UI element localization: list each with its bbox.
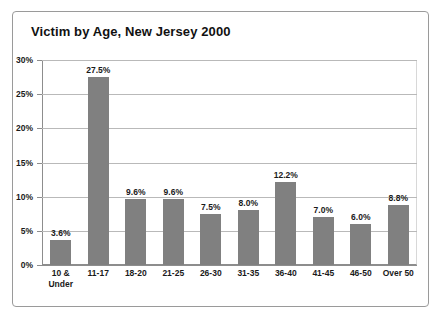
bar[interactable]: 3.6% <box>50 240 71 265</box>
x-axis-label: 36-40 <box>267 268 305 290</box>
bar-slot: 8.0% <box>230 60 268 265</box>
bar[interactable]: 7.0% <box>313 217 334 265</box>
bar-value-label: 7.5% <box>201 202 220 212</box>
bar-value-label: 8.0% <box>239 198 258 208</box>
bar-value-label: 7.0% <box>314 205 333 215</box>
y-axis-label: 20% <box>16 123 33 133</box>
x-axis-labels: 10 & Under11-1718-2021-2526-3031-3536-40… <box>42 268 417 290</box>
chart-frame: Victim by Age, New Jersey 2000 0%5%10%15… <box>12 11 429 307</box>
bar-slot: 8.8% <box>380 60 418 265</box>
y-axis-tick <box>37 265 42 266</box>
bar[interactable]: 9.6% <box>125 199 146 265</box>
bar[interactable]: 27.5% <box>88 77 109 265</box>
x-axis-label: 10 & Under <box>42 268 80 290</box>
bar-value-label: 3.6% <box>51 228 70 238</box>
x-axis-label: Over 50 <box>380 268 418 290</box>
bar-slot: 12.2% <box>267 60 305 265</box>
bar-value-label: 9.6% <box>126 187 145 197</box>
x-axis-label: 18-20 <box>117 268 155 290</box>
x-axis-label: 11-17 <box>80 268 118 290</box>
bar[interactable]: 9.6% <box>163 199 184 265</box>
bar-value-label: 9.6% <box>164 187 183 197</box>
bar-value-label: 6.0% <box>351 212 370 222</box>
y-axis-label: 10% <box>16 192 33 202</box>
bar[interactable]: 6.0% <box>350 224 371 265</box>
y-axis-label: 25% <box>16 89 33 99</box>
bar-series: 3.6%27.5%9.6%9.6%7.5%8.0%12.2%7.0%6.0%8.… <box>42 60 417 265</box>
bar-slot: 3.6% <box>42 60 80 265</box>
bar-slot: 27.5% <box>80 60 118 265</box>
bar-slot: 7.0% <box>305 60 343 265</box>
bar[interactable]: 8.0% <box>238 210 259 265</box>
bar-slot: 9.6% <box>117 60 155 265</box>
y-axis-label: 0% <box>21 260 33 270</box>
bar-value-label: 8.8% <box>389 193 408 203</box>
bar[interactable]: 12.2% <box>275 182 296 265</box>
bar-slot: 7.5% <box>192 60 230 265</box>
x-axis-label: 26-30 <box>192 268 230 290</box>
x-axis-label: 21-25 <box>155 268 193 290</box>
bar-value-label: 27.5% <box>86 65 110 75</box>
y-axis-label: 5% <box>21 226 33 236</box>
plot-area: 0%5%10%15%20%25%30% 3.6%27.5%9.6%9.6%7.5… <box>42 60 417 265</box>
bar-value-label: 12.2% <box>274 170 298 180</box>
gridline <box>42 265 417 266</box>
y-axis-label: 15% <box>16 158 33 168</box>
bar[interactable]: 8.8% <box>388 205 409 265</box>
x-axis-label: 41-45 <box>305 268 343 290</box>
bar[interactable]: 7.5% <box>200 214 221 265</box>
y-axis-label: 30% <box>16 55 33 65</box>
x-axis-label: 31-35 <box>230 268 268 290</box>
bar-slot: 9.6% <box>155 60 193 265</box>
bar-slot: 6.0% <box>342 60 380 265</box>
chart-title: Victim by Age, New Jersey 2000 <box>31 24 231 39</box>
x-axis-label: 46-50 <box>342 268 380 290</box>
